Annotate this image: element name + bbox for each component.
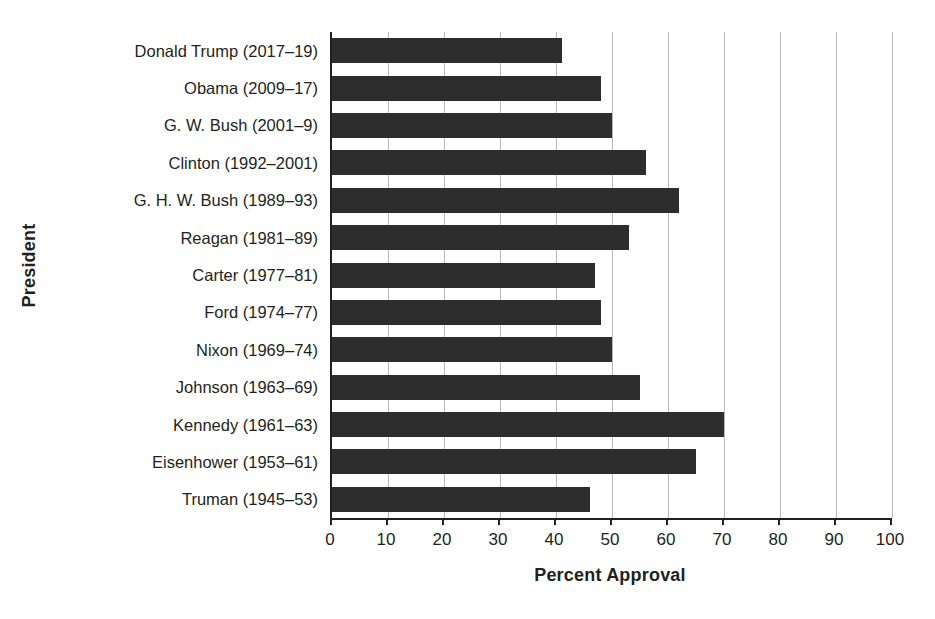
y-axis-tick-label: Truman (1945–53) bbox=[55, 491, 318, 508]
y-axis-tick-label: Obama (2009–17) bbox=[55, 80, 318, 97]
bar bbox=[332, 337, 612, 362]
y-axis-tick-label: Donald Trump (2017–19) bbox=[55, 43, 318, 60]
x-axis-tick-label: 0 bbox=[300, 530, 360, 550]
bar bbox=[332, 487, 590, 512]
x-axis-tickmark bbox=[834, 518, 836, 525]
y-axis-tick-label: Ford (1974–77) bbox=[55, 304, 318, 321]
gridline bbox=[612, 32, 613, 518]
x-axis-tickmark bbox=[330, 518, 332, 525]
x-axis-tick-label: 50 bbox=[580, 530, 640, 550]
bar bbox=[332, 300, 601, 325]
gridline bbox=[892, 32, 893, 518]
bar bbox=[332, 76, 601, 101]
plot-area bbox=[330, 32, 892, 520]
y-axis-tick-labels: Donald Trump (2017–19)Obama (2009–17)G. … bbox=[55, 32, 318, 518]
x-axis-tick-label: 40 bbox=[524, 530, 584, 550]
y-axis-title: President bbox=[20, 223, 41, 307]
x-axis-tick-label: 20 bbox=[412, 530, 472, 550]
x-axis-tickmark bbox=[722, 518, 724, 525]
x-axis-tickmark bbox=[554, 518, 556, 525]
x-axis-title: Percent Approval bbox=[330, 565, 890, 586]
bar bbox=[332, 263, 595, 288]
gridline bbox=[836, 32, 837, 518]
x-axis-tickmark bbox=[498, 518, 500, 525]
bar bbox=[332, 412, 724, 437]
bar bbox=[332, 225, 629, 250]
gridline bbox=[724, 32, 725, 518]
x-axis-tickmark bbox=[386, 518, 388, 525]
x-axis-tick-label: 80 bbox=[748, 530, 808, 550]
x-axis-tickmark bbox=[778, 518, 780, 525]
gridline bbox=[780, 32, 781, 518]
y-axis-tick-label: Carter (1977–81) bbox=[55, 267, 318, 284]
y-axis-tick-label: Clinton (1992–2001) bbox=[55, 155, 318, 172]
approval-rating-bar-chart: President Donald Trump (2017–19)Obama (2… bbox=[0, 0, 935, 619]
y-axis-tick-label: Nixon (1969–74) bbox=[55, 342, 318, 359]
y-axis-tick-label: Johnson (1963–69) bbox=[55, 379, 318, 396]
x-axis-tick-label: 90 bbox=[804, 530, 864, 550]
bar bbox=[332, 38, 562, 63]
y-axis-tick-label: Reagan (1981–89) bbox=[55, 230, 318, 247]
x-axis-tick-label: 100 bbox=[860, 530, 920, 550]
bar bbox=[332, 375, 640, 400]
x-axis-tickmark bbox=[442, 518, 444, 525]
y-axis-tick-label: Kennedy (1961–63) bbox=[55, 417, 318, 434]
y-axis-tick-label: G. H. W. Bush (1989–93) bbox=[55, 192, 318, 209]
y-axis-tick-label: Eisenhower (1953–61) bbox=[55, 454, 318, 471]
bar bbox=[332, 449, 696, 474]
y-axis-tick-label: G. W. Bush (2001–9) bbox=[55, 117, 318, 134]
bar bbox=[332, 188, 679, 213]
bar bbox=[332, 150, 646, 175]
x-axis-tick-label: 10 bbox=[356, 530, 416, 550]
x-axis-tick-label: 60 bbox=[636, 530, 696, 550]
y-axis-title-container: President bbox=[0, 0, 60, 530]
x-axis-tick-label: 70 bbox=[692, 530, 752, 550]
x-axis-tickmark bbox=[890, 518, 892, 525]
x-axis-tickmark bbox=[666, 518, 668, 525]
x-axis-tickmark bbox=[610, 518, 612, 525]
gridline bbox=[668, 32, 669, 518]
bar bbox=[332, 113, 612, 138]
x-axis-tick-label: 30 bbox=[468, 530, 528, 550]
